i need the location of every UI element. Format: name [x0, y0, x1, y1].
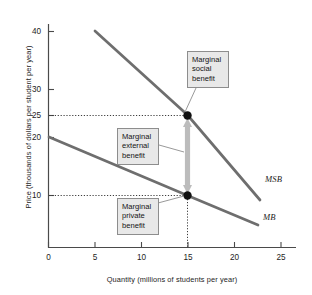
y-axis-title: Price (thousands of dollars per student …: [24, 49, 33, 209]
callout-meb-line-2: external: [122, 141, 155, 151]
callout-msb-line-2: social: [192, 64, 225, 74]
y-tick-label-40: 40: [21, 27, 41, 36]
mpb-callout-leader: [158, 196, 184, 203]
curve-label-mb: MB: [263, 212, 276, 222]
x-tick-label-10: 10: [132, 253, 152, 262]
y-tick-marks: [49, 32, 55, 196]
msb-callout-leader: [185, 88, 196, 112]
x-tick-label-0: 0: [39, 253, 59, 262]
callout-mpb-line-2: private: [122, 211, 155, 221]
supply-demand-chart: 40 30 25 20 10 0 5 10 15 20 25 Price (th…: [0, 0, 312, 295]
marginal-social-benefit-point: [183, 111, 191, 119]
x-tick-label-25: 25: [271, 253, 291, 262]
meb-callout-leader: [159, 145, 184, 152]
x-axis-title: Quantity (millions of students per year): [48, 275, 296, 284]
callout-mpb-line-3: benefit: [122, 221, 155, 231]
curve-label-msb: MSB: [265, 174, 282, 184]
callout-mpb-line-1: Marginal: [122, 202, 155, 212]
external-benefit-arrow: [183, 118, 192, 194]
x-tick-label-5: 5: [85, 253, 105, 262]
callout-meb-line-3: benefit: [122, 151, 155, 161]
callout-msb-line-1: Marginal: [192, 55, 225, 65]
callout-marginal-external-benefit: Marginal external benefit: [117, 128, 159, 165]
callout-marginal-social-benefit: Marginal social benefit: [187, 51, 229, 88]
callout-msb-line-3: benefit: [192, 74, 225, 84]
marginal-private-benefit-point: [183, 191, 191, 199]
callout-meb-line-1: Marginal: [122, 132, 155, 142]
x-tick-label-15: 15: [178, 253, 198, 262]
callout-marginal-private-benefit: Marginal private benefit: [117, 198, 159, 235]
x-tick-label-20: 20: [225, 253, 245, 262]
x-tick-marks: [49, 242, 282, 248]
